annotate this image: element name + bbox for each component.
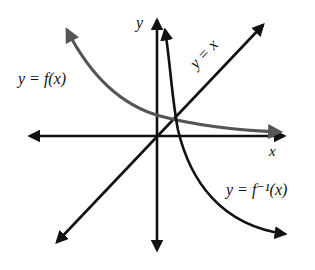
inverse-function-diagram: y x y = f(x) y = f⁻¹(x) y = x	[0, 0, 315, 270]
f-curve	[67, 30, 280, 132]
x-axis-label: x	[269, 143, 276, 160]
y-axis-label: y	[136, 14, 143, 32]
f-curve-label: y = f(x)	[18, 70, 66, 88]
f-inverse-curve-label: y = f⁻¹(x)	[226, 180, 287, 199]
identity-line	[57, 25, 263, 242]
diagram-canvas	[0, 0, 315, 270]
